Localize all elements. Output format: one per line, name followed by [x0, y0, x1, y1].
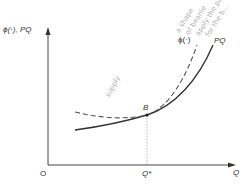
- origin-label: O: [40, 169, 46, 178]
- phi-curve-label: ϕ(·): [178, 35, 190, 44]
- point-b: [145, 113, 148, 116]
- x-axis-label: Q: [233, 168, 239, 177]
- point-b-label: B: [143, 103, 148, 112]
- phi-curve: [75, 45, 197, 118]
- y-axis-arrow-icon: [46, 27, 51, 35]
- x-axis-arrow-icon: [228, 163, 236, 168]
- q-star-label: Q*: [142, 169, 151, 178]
- y-axis-label: ϕ(·), PQ: [3, 25, 31, 34]
- pq-curve-label: PQ: [214, 36, 226, 45]
